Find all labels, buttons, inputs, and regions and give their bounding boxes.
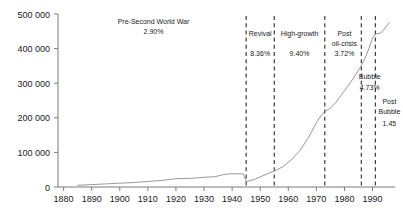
annotation-label: Bubble bbox=[359, 73, 381, 80]
period-annotations: Pre-Second World War2.90%Revival8.36%Hig… bbox=[118, 18, 401, 127]
annotation-label: oil-crisis bbox=[332, 40, 358, 47]
x-tick-label: 1990 bbox=[363, 194, 383, 204]
x-tick-label: 1900 bbox=[110, 194, 130, 204]
x-tick-label: 1930 bbox=[194, 194, 214, 204]
annotation-revival: Revival8.36% bbox=[249, 30, 272, 57]
annotation-label: Bubble bbox=[378, 108, 400, 115]
y-tick-label: 0 bbox=[45, 183, 50, 193]
x-tick-label: 1920 bbox=[166, 194, 186, 204]
y-tick-label: 500 000 bbox=[17, 10, 50, 20]
data-series-line bbox=[78, 23, 390, 186]
annotation-bubble: Bubble4.73% bbox=[359, 73, 381, 91]
annotation-value: 4.73% bbox=[360, 84, 380, 91]
x-tick-label: 1910 bbox=[138, 194, 158, 204]
x-tick-label: 1950 bbox=[250, 194, 270, 204]
annotation-label: High-growth bbox=[281, 30, 319, 38]
y-tick-label: 200 000 bbox=[17, 113, 50, 123]
x-axis-ticks: 1880189019001910192019301940195019601970… bbox=[54, 187, 383, 204]
annotation-label: Post bbox=[382, 98, 396, 105]
annotation-value: 8.36% bbox=[250, 50, 270, 57]
y-tick-label: 100 000 bbox=[17, 148, 50, 158]
annotation-label: Pre-Second World War bbox=[118, 18, 190, 25]
series-line bbox=[78, 23, 390, 186]
annotation-label: Revival bbox=[249, 30, 272, 37]
annotation-label: Post bbox=[337, 30, 351, 37]
annotation-value: 1.45 bbox=[383, 120, 397, 127]
x-tick-label: 1880 bbox=[54, 194, 74, 204]
y-axis-ticks: 0100 000200 000300 000400 000500 000 bbox=[17, 10, 58, 193]
annotation-pre-war: Pre-Second World War2.90% bbox=[118, 18, 190, 35]
chart-canvas: 0100 000200 000300 000400 000500 000 188… bbox=[0, 0, 403, 220]
x-tick-label: 1980 bbox=[334, 194, 354, 204]
annotation-high-growth: High-growth9.40% bbox=[281, 30, 319, 57]
growth-rate-chart: 0100 000200 000300 000400 000500 000 188… bbox=[0, 0, 403, 220]
annotation-post-oil: Postoil-crisis3.72% bbox=[332, 30, 358, 57]
annotation-value: 2.90% bbox=[144, 28, 164, 35]
annotation-post-bubble: PostBubble1.45 bbox=[378, 98, 400, 127]
y-tick-label: 300 000 bbox=[17, 79, 50, 89]
y-tick-label: 400 000 bbox=[17, 44, 50, 54]
x-tick-label: 1960 bbox=[278, 194, 298, 204]
x-tick-label: 1890 bbox=[82, 194, 102, 204]
x-tick-label: 1970 bbox=[306, 194, 326, 204]
annotation-value: 9.40% bbox=[290, 50, 310, 57]
annotation-value: 3.72% bbox=[335, 50, 355, 57]
x-tick-label: 1940 bbox=[222, 194, 242, 204]
